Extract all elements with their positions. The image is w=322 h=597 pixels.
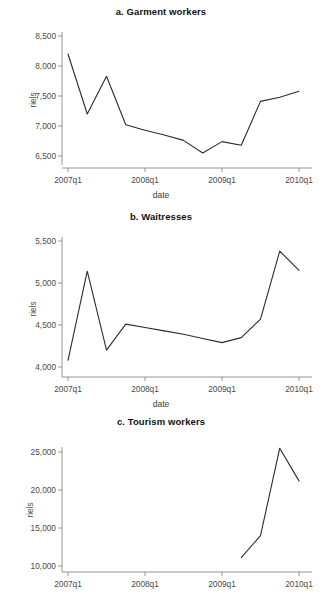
panel-c-plot: 25,000 20,000 15,000 10,000 2007q1 2008q… [0, 410, 322, 597]
panel-b-xtick-2010q1: 2010q1 [285, 384, 313, 394]
panel-c-ytick-15000: 15,000 [31, 523, 57, 533]
chart-panel-b: b. Waitresses 5,500 5,000 4,500 4,000 20… [0, 205, 322, 405]
panel-a-xtick-2010q1: 2010q1 [285, 175, 313, 185]
panel-a-ytick-8500: 8,500 [35, 31, 56, 41]
panel-b-yaxis-title: riels [28, 301, 38, 316]
panel-b-xtick-2008q1: 2008q1 [131, 384, 159, 394]
panel-a-xaxis-title: date [0, 190, 322, 200]
panel-c-ytick-25000: 25,000 [31, 447, 57, 457]
panel-b-data-line [68, 251, 299, 360]
panel-b-ytick-4500: 4,500 [35, 320, 56, 330]
panel-b-xtick-2009q1: 2009q1 [208, 384, 236, 394]
panel-c-xtick-2008q1: 2008q1 [131, 579, 159, 589]
panel-a-ytick-8000: 8,000 [35, 61, 56, 71]
panel-a-ytick-6500: 6,500 [35, 151, 56, 161]
panel-a-ytick-7500: 7,500 [35, 91, 56, 101]
panel-a-xtick-2007q1: 2007q1 [54, 175, 82, 185]
panel-a-yaxis-title: riels [28, 92, 38, 107]
panel-b-ytick-5500: 5,500 [35, 236, 56, 246]
panel-c-data-line [241, 448, 299, 557]
panel-b-ytick-4000: 4,000 [35, 362, 56, 372]
panel-c-ytick-20000: 20,000 [31, 485, 57, 495]
chart-panel-c: c. Tourism workers 25,000 20,000 15,000 … [0, 410, 322, 597]
panel-b-ytick-5000: 5,000 [35, 278, 56, 288]
panel-b-xtick-2007q1: 2007q1 [54, 384, 82, 394]
chart-panel-a: a. Garment workers 8,500 8,000 7,500 7,0… [0, 0, 322, 200]
panel-b-plot: 5,500 5,000 4,500 4,000 2007q1 2008q1 20… [0, 205, 322, 405]
panel-a-data-line [68, 54, 299, 153]
panel-a-xtick-2009q1: 2009q1 [208, 175, 236, 185]
panel-a-ytick-7000: 7,000 [35, 121, 56, 131]
panel-c-xtick-2009q1: 2009q1 [208, 579, 236, 589]
panel-c-ytick-10000: 10,000 [31, 561, 57, 571]
panel-a-xtick-2008q1: 2008q1 [131, 175, 159, 185]
panel-c-xtick-2010q1: 2010q1 [285, 579, 313, 589]
panel-b-xaxis-title: date [0, 399, 322, 409]
panel-c-xtick-2007q1: 2007q1 [54, 579, 82, 589]
panel-a-plot: 8,500 8,000 7,500 7,000 6,500 2007q1 200… [0, 0, 322, 200]
panel-c-yaxis-title: riels [25, 502, 35, 517]
multi-panel-line-chart-figure: a. Garment workers 8,500 8,000 7,500 7,0… [0, 0, 322, 597]
